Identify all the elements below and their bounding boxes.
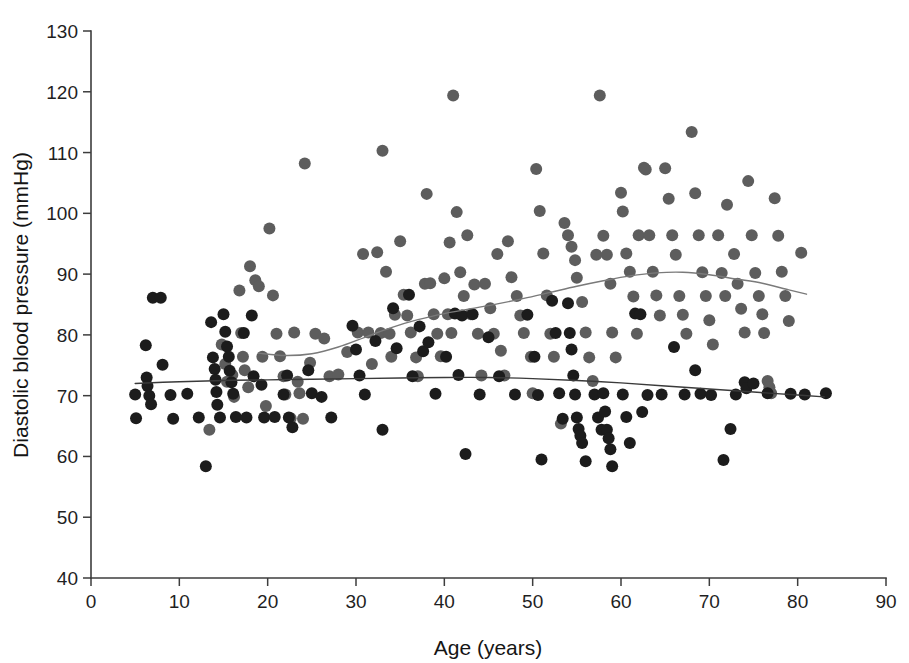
- data-point: [748, 378, 760, 390]
- data-point: [318, 333, 330, 345]
- data-point: [795, 247, 807, 259]
- data-point: [346, 320, 358, 332]
- data-point: [583, 351, 595, 363]
- data-point: [627, 291, 639, 303]
- data-point: [546, 295, 558, 307]
- x-tick-label: 0: [86, 591, 97, 612]
- data-point: [686, 126, 698, 138]
- data-point: [634, 308, 646, 320]
- data-point: [211, 399, 223, 411]
- data-point: [758, 327, 770, 339]
- y-tick-label: 80: [57, 325, 78, 346]
- data-point: [742, 175, 754, 187]
- data-point: [209, 363, 221, 375]
- data-point: [421, 188, 433, 200]
- data-point: [468, 278, 480, 290]
- data-point: [218, 308, 230, 320]
- data-point: [263, 223, 275, 235]
- data-point: [224, 365, 236, 377]
- data-point: [430, 388, 442, 400]
- data-point: [130, 412, 142, 424]
- data-point: [689, 187, 701, 199]
- data-point: [717, 454, 729, 466]
- data-point: [557, 413, 569, 425]
- data-point: [550, 327, 562, 339]
- data-point: [225, 376, 237, 388]
- data-point: [165, 389, 177, 401]
- data-point: [721, 199, 733, 211]
- y-axis-ticks: 405060708090100110120130: [46, 21, 91, 589]
- data-point: [769, 192, 781, 204]
- data-point: [401, 309, 413, 321]
- data-point: [271, 328, 283, 340]
- data-point: [371, 246, 383, 258]
- data-point: [606, 460, 618, 472]
- data-point: [603, 432, 615, 444]
- data-point: [680, 328, 692, 340]
- data-point: [422, 336, 434, 348]
- data-point: [461, 229, 473, 241]
- data-point: [537, 247, 549, 259]
- data-point: [580, 455, 592, 467]
- data-point: [428, 308, 440, 320]
- data-point: [739, 326, 751, 338]
- data-point: [673, 290, 685, 302]
- data-point: [387, 302, 399, 314]
- data-point: [696, 266, 708, 278]
- data-point: [663, 193, 675, 205]
- data-point: [407, 370, 419, 382]
- data-point: [693, 229, 705, 241]
- data-point: [200, 460, 212, 472]
- data-point: [288, 326, 300, 338]
- data-point: [207, 351, 219, 363]
- data-point: [647, 266, 659, 278]
- data-point: [719, 290, 731, 302]
- data-point: [783, 315, 795, 327]
- data-point: [157, 359, 169, 371]
- data-point: [293, 387, 305, 399]
- data-point: [566, 241, 578, 253]
- data-point: [615, 187, 627, 199]
- x-tick-label: 60: [610, 591, 631, 612]
- data-point: [604, 443, 616, 455]
- data-point: [530, 163, 542, 175]
- data-point: [772, 230, 784, 242]
- data-point: [617, 206, 629, 218]
- data-point: [193, 412, 205, 424]
- x-tick-label: 40: [434, 591, 455, 612]
- data-point: [472, 328, 484, 340]
- data-point: [735, 303, 747, 315]
- data-point: [749, 267, 761, 279]
- data-point: [493, 370, 505, 382]
- data-point: [366, 358, 378, 370]
- data-point: [689, 364, 701, 376]
- data-point: [256, 351, 268, 363]
- data-point: [438, 272, 450, 284]
- data-point: [571, 272, 583, 284]
- data-point: [620, 247, 632, 259]
- data-point: [491, 248, 503, 260]
- data-point: [700, 290, 712, 302]
- data-point: [505, 271, 517, 283]
- data-point: [594, 89, 606, 101]
- data-point: [454, 266, 466, 278]
- data-point: [569, 388, 581, 400]
- data-point: [140, 339, 152, 351]
- x-tick-label: 80: [787, 591, 808, 612]
- data-point: [394, 235, 406, 247]
- data-point: [238, 327, 250, 339]
- data-point: [403, 289, 415, 301]
- scatter-chart-figure: 405060708090100110120130 010203040506070…: [0, 0, 909, 663]
- data-point: [606, 326, 618, 338]
- data-point: [205, 316, 217, 328]
- data-point: [431, 328, 443, 340]
- y-tick-label: 60: [57, 446, 78, 467]
- data-point: [221, 340, 233, 352]
- data-point: [369, 335, 381, 347]
- data-point: [495, 345, 507, 357]
- data-point: [668, 341, 680, 353]
- data-point: [233, 285, 245, 297]
- x-tick-label: 70: [699, 591, 720, 612]
- data-point: [643, 229, 655, 241]
- data-point: [452, 369, 464, 381]
